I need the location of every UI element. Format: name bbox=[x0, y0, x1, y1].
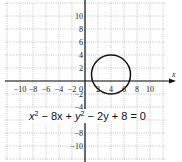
y-tick-label: −8 bbox=[74, 129, 83, 138]
axes: x bbox=[5, 0, 176, 162]
x-tick-label: −8 bbox=[29, 85, 38, 94]
x-axis-label: x bbox=[171, 70, 176, 79]
x-tick-label: −6 bbox=[42, 85, 51, 94]
graph: x −10−8−6−4−20246810108642−2−4−8−10 x2 −… bbox=[0, 0, 182, 162]
equation-label: x2 − 8x + y2 − 2y + 8 = 0 bbox=[28, 110, 146, 122]
y-tick-label: 10 bbox=[75, 12, 83, 21]
y-tick-label: −10 bbox=[70, 142, 83, 151]
y-tick-label: 6 bbox=[79, 38, 83, 47]
y-tick-label: −2 bbox=[74, 90, 83, 99]
x-tick-label: 4 bbox=[109, 85, 113, 94]
x-tick-label: −4 bbox=[55, 85, 64, 94]
x-tick-label: 10 bbox=[146, 85, 154, 94]
y-tick-label: 4 bbox=[79, 51, 83, 60]
y-tick-label: 2 bbox=[79, 64, 83, 73]
x-tick-label: −10 bbox=[14, 85, 27, 94]
x-axis-arrow-icon bbox=[169, 79, 176, 84]
y-tick-label: 8 bbox=[79, 25, 83, 34]
x-tick-label: 8 bbox=[135, 85, 139, 94]
